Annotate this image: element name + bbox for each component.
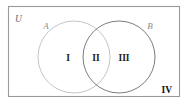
region-label-iii: III bbox=[118, 53, 129, 63]
set-a-label: A bbox=[42, 21, 49, 31]
universal-set-label: U bbox=[15, 14, 23, 24]
region-label-iv: IV bbox=[161, 85, 172, 95]
region-label-ii: II bbox=[92, 53, 100, 63]
set-b-label: B bbox=[147, 21, 153, 31]
region-label-i: I bbox=[66, 53, 70, 63]
venn-diagram-figure: U A B I II III IV bbox=[0, 0, 189, 104]
